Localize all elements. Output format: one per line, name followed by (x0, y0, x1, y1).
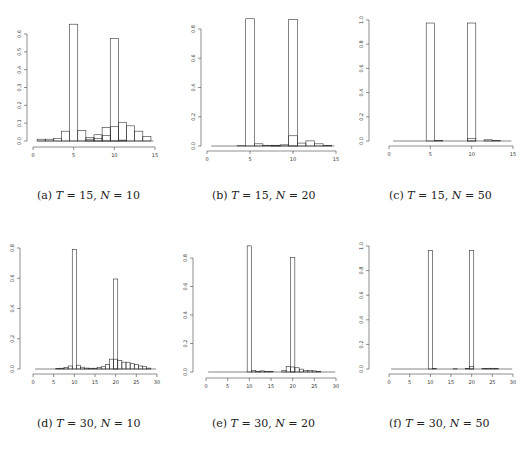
histogram-bar (297, 143, 306, 146)
x-tick-label: 20 (112, 379, 118, 385)
histogram-bar (286, 366, 290, 372)
histogram-bar (143, 137, 151, 141)
x-tick-label: 25 (133, 379, 139, 385)
x-tick-label: 0 (31, 379, 34, 385)
histogram-bar (109, 359, 113, 369)
y-tick-label: 0.8 (9, 244, 15, 252)
y-tick-label: 1.0 (358, 16, 364, 24)
histogram-bar (289, 136, 298, 146)
x-tick-label: 10 (427, 379, 433, 385)
histogram-panel-d: 0.00.20.40.60.8051015202530 (9, 244, 160, 385)
histogram-bar (130, 364, 134, 369)
y-tick-label: 0.4 (182, 311, 188, 319)
y-tick-label: 0.8 (182, 254, 188, 262)
histogram-bar (53, 138, 61, 141)
bars (426, 23, 500, 141)
y-tick-label: 0.0 (9, 365, 15, 373)
histogram-bar (246, 19, 255, 146)
y-tick-label: 0.8 (358, 267, 364, 275)
x-tick-label: 5 (72, 152, 75, 158)
y-axis: 0.00.10.20.30.40.50.6 (16, 30, 27, 145)
x-tick-label: 5 (408, 379, 411, 385)
x-tick-label: 0 (387, 379, 390, 385)
bars (237, 19, 332, 146)
histogram-bar (110, 127, 118, 141)
y-tick-label: 0.2 (190, 113, 196, 121)
histogram-bar (118, 122, 126, 141)
caption-label: (a) (37, 189, 52, 202)
x-axis: 051015202530 (387, 374, 516, 385)
histogram-figure: 0.00.10.20.30.40.50.60510150.00.20.40.60… (0, 0, 529, 450)
y-tick-label: 0.6 (358, 291, 364, 299)
x-tick-label: 5 (429, 151, 432, 157)
caption-t-value: 15 (79, 189, 93, 202)
y-tick-label: 0.0 (358, 137, 364, 145)
caption-n-value: 20 (302, 189, 316, 202)
y-tick-label: 0.8 (358, 40, 364, 48)
x-tick-label: 15 (268, 383, 274, 389)
y-tick-label: 0.0 (358, 365, 364, 373)
histogram-bar (118, 361, 122, 369)
bars (247, 246, 321, 372)
y-tick-label: 0.0 (16, 137, 22, 145)
caption-t-value: 30 (80, 417, 94, 430)
histogram-bar (254, 144, 263, 146)
bars (56, 250, 151, 369)
x-tick-label: 20 (289, 383, 295, 389)
y-tick-label: 0.4 (358, 316, 364, 324)
bars (428, 250, 498, 369)
x-tick-label: 15 (448, 379, 454, 385)
y-tick-label: 0.4 (358, 89, 364, 97)
y-tick-label: 0.1 (16, 119, 22, 127)
caption-n-value: 20 (301, 417, 315, 430)
y-tick-label: 1.0 (358, 242, 364, 250)
histogram-bar (102, 128, 110, 141)
x-tick-label: 15 (152, 152, 158, 158)
histogram-bar (295, 368, 299, 372)
x-tick-label: 0 (387, 151, 390, 157)
histogram-bar (428, 250, 432, 369)
y-axis: 0.00.20.40.60.8 (9, 244, 20, 373)
x-tick-label: 30 (510, 379, 516, 385)
histogram-bar (105, 364, 109, 369)
histogram-panel-b: 0.00.20.40.60.8051015 (190, 19, 339, 162)
x-tick-label: 5 (248, 156, 251, 162)
histogram-bar (470, 367, 474, 369)
histogram-panel-a: 0.00.10.20.30.40.50.6051015 (16, 24, 158, 158)
y-tick-label: 0.2 (358, 113, 364, 121)
histogram-bar (127, 126, 135, 141)
histogram-bar (135, 131, 143, 141)
histogram-bar (289, 19, 298, 146)
y-tick-label: 0.4 (16, 66, 22, 74)
histogram-bar (78, 130, 86, 141)
histogram-bar (110, 38, 118, 141)
histogram-bar (291, 257, 295, 372)
y-tick-label: 0.4 (9, 305, 15, 313)
histogram-bar (138, 366, 142, 369)
y-axis: 0.00.20.40.60.8 (182, 254, 193, 376)
x-axis: 051015 (387, 146, 516, 157)
x-tick-label: 10 (290, 156, 296, 162)
histogram-bar (68, 366, 72, 369)
caption-n-value: 10 (127, 417, 141, 430)
x-tick-label: 15 (92, 379, 98, 385)
caption-label: (f) (389, 417, 402, 430)
x-tick-label: 30 (333, 383, 339, 389)
histogram-bar (306, 141, 315, 146)
y-tick-label: 0.2 (16, 101, 22, 109)
x-tick-label: 5 (52, 379, 55, 385)
caption-n-value: 50 (476, 417, 490, 430)
caption-a: (a) T = 15, N = 10 (37, 189, 140, 202)
histogram-bar (114, 279, 118, 369)
caption-c: (c) T = 15, N = 50 (389, 189, 492, 202)
x-tick-label: 10 (246, 383, 252, 389)
caption-b: (b) T = 15, N = 20 (212, 189, 316, 202)
x-tick-label: 10 (111, 152, 117, 158)
y-tick-label: 0.6 (9, 274, 15, 282)
histogram-panel-c: 0.00.20.40.60.81.0051015 (358, 16, 516, 157)
caption-d: (d) T = 30, N = 10 (37, 417, 141, 430)
x-tick-label: 25 (489, 379, 495, 385)
caption-t-value: 30 (429, 417, 443, 430)
histogram-bar (94, 135, 102, 141)
caption-f: (f) T = 30, N = 50 (389, 417, 490, 430)
